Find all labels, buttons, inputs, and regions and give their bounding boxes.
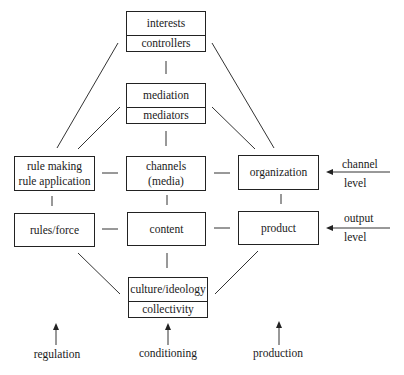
product-box: product (238, 211, 319, 245)
media-label: (media) (148, 174, 184, 189)
channel-level-line2: level (344, 176, 366, 190)
culture-ideology-label: culture/ideology (129, 278, 207, 302)
conditioning-label: conditioning (139, 346, 197, 360)
mediation-mediators-box: mediation mediators (126, 83, 206, 124)
channels-label: channels (146, 159, 186, 174)
controllers-label: controllers (127, 36, 205, 51)
organization-box: organization (238, 155, 319, 190)
collectivity-label: collectivity (129, 302, 207, 317)
rule-making-box: rule making rule application (14, 156, 95, 191)
production-label: production (253, 346, 303, 360)
product-label: product (261, 221, 296, 236)
rules-force-label: rules/force (30, 223, 79, 238)
mediation-label: mediation (127, 84, 205, 108)
interests-controllers-box: interests controllers (126, 11, 206, 52)
regulation-label: regulation (34, 347, 81, 361)
diagram-canvas: interests controllers mediation mediator… (0, 0, 404, 375)
output-level-line1: output (344, 211, 373, 225)
culture-collectivity-box: culture/ideology collectivity (128, 277, 208, 318)
content-label: content (150, 222, 184, 237)
channel-level-line1: channel (342, 157, 378, 171)
rule-application-label: rule application (19, 174, 91, 189)
output-level-line2: level (344, 230, 366, 244)
content-box: content (127, 212, 206, 246)
mediators-label: mediators (127, 108, 205, 123)
rule-making-label: rule making (27, 159, 82, 174)
channels-box: channels (media) (126, 156, 206, 191)
rules-force-box: rules/force (14, 213, 95, 247)
interests-label: interests (127, 12, 205, 36)
organization-label: organization (250, 165, 307, 180)
